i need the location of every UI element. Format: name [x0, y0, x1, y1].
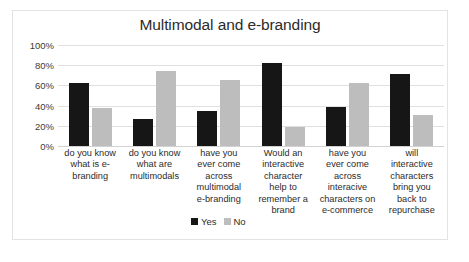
category-label: willinteractivecharactersbring youback t…	[380, 148, 444, 216]
bar-no[interactable]	[349, 83, 369, 146]
category-label-line: characters on	[315, 194, 379, 205]
bar-group	[187, 45, 251, 146]
y-tick-label: 20%	[13, 120, 54, 131]
chart-container: Multimodal and e-branding 100%80%60%40%2…	[12, 10, 448, 240]
bar-no[interactable]	[413, 115, 433, 146]
category-label-line: multimodals	[122, 171, 186, 182]
category-label-line: will	[380, 148, 444, 159]
category-label: have youever comeacrossmultimodale-brand…	[187, 148, 251, 205]
legend-item-yes[interactable]: Yes	[191, 216, 217, 227]
category-label: Would aninteractivecharacterhelp toremem…	[251, 148, 315, 216]
category-label-line: interacive	[315, 182, 379, 193]
category-label-line: multimodal	[187, 182, 251, 193]
bar-no[interactable]	[156, 71, 176, 146]
legend-label: No	[234, 216, 246, 227]
bars-layer	[58, 45, 444, 146]
category-label-line: branding	[58, 171, 122, 182]
bar-group	[58, 45, 122, 146]
category-label-line: ever come	[187, 159, 251, 170]
legend-swatch-icon	[224, 218, 231, 225]
bar-group	[122, 45, 186, 146]
category-label-line: do you know	[122, 148, 186, 159]
category-label-line: characters	[380, 171, 444, 182]
bar-yes[interactable]	[197, 111, 217, 146]
legend-swatch-icon	[191, 218, 198, 225]
category-label-line: brand	[251, 205, 315, 216]
y-tick-label: 0%	[13, 141, 54, 152]
y-tick-label: 60%	[13, 80, 54, 91]
chart-legend: YesNo	[191, 216, 246, 227]
category-label-line: what is e-	[58, 159, 122, 170]
bar-yes[interactable]	[262, 63, 282, 146]
category-label-line: help to	[251, 182, 315, 193]
category-label-line: ever come	[315, 159, 379, 170]
bar-no[interactable]	[220, 80, 240, 146]
bar-yes[interactable]	[326, 107, 346, 146]
y-tick-label: 80%	[13, 60, 54, 71]
category-label-line: e-branding	[187, 194, 251, 205]
bar-yes[interactable]	[133, 119, 153, 146]
category-label-line: remember a	[251, 194, 315, 205]
plot-area	[58, 45, 444, 146]
bar-yes[interactable]	[390, 74, 410, 146]
category-label-line: across	[315, 171, 379, 182]
category-label-line: do you know	[58, 148, 122, 159]
chart-title: Multimodal and e-branding	[13, 16, 447, 34]
bar-group	[380, 45, 444, 146]
bar-group	[315, 45, 379, 146]
category-label-line: Would an	[251, 148, 315, 159]
category-label-line: have you	[315, 148, 379, 159]
category-label: do you knowwhat is e-branding	[58, 148, 122, 182]
category-label: do you knowwhat aremultimodals	[122, 148, 186, 182]
category-label-line: interactive	[251, 159, 315, 170]
category-label-line: bring you	[380, 182, 444, 193]
y-axis-tick-labels: 100%80%60%40%20%0%	[13, 45, 54, 146]
category-label: have youever comeacrossinteracivecharact…	[315, 148, 379, 216]
bar-no[interactable]	[285, 127, 305, 146]
bar-yes[interactable]	[69, 83, 89, 146]
category-label-line: back to	[380, 194, 444, 205]
category-label-line: repurchase	[380, 205, 444, 216]
bar-group	[251, 45, 315, 146]
y-tick-label: 40%	[13, 100, 54, 111]
category-label-line: character	[251, 171, 315, 182]
category-label-line: what are	[122, 159, 186, 170]
x-axis-category-labels: do you knowwhat is e-brandingdo you know…	[58, 148, 444, 240]
legend-label: Yes	[201, 216, 217, 227]
category-label-line: e-commerce	[315, 205, 379, 216]
gridline-0%	[58, 146, 444, 147]
category-label-line: interactive	[380, 159, 444, 170]
category-label-line: have you	[187, 148, 251, 159]
legend-item-no[interactable]: No	[224, 216, 246, 227]
bar-no[interactable]	[92, 108, 112, 146]
y-tick-label: 100%	[13, 40, 54, 51]
category-label-line: across	[187, 171, 251, 182]
